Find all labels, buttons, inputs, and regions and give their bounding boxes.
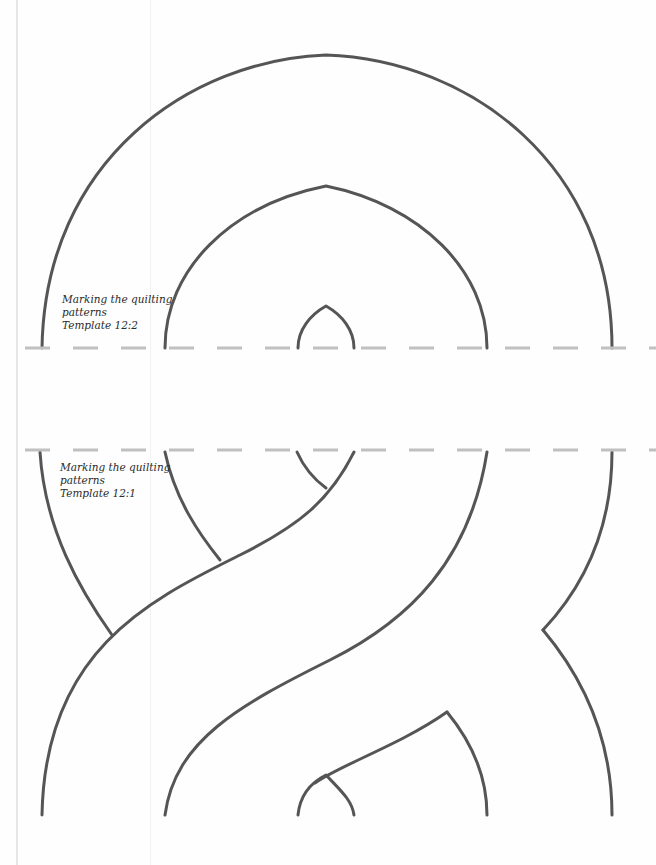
cable-strand-right bbox=[543, 630, 612, 815]
cable-strand-left bbox=[165, 452, 220, 560]
caption-line: Marking the quilting bbox=[60, 461, 170, 474]
caption-line: patterns bbox=[60, 474, 170, 487]
cable-outer-right-upper bbox=[543, 452, 612, 630]
template-12-2-caption: Marking the quilting patterns Template 1… bbox=[62, 293, 172, 332]
cable-bottom-petal bbox=[298, 775, 354, 815]
quilting-pattern-artwork bbox=[0, 0, 656, 865]
quilting-template-page: Marking the quilting patterns Template 1… bbox=[0, 0, 656, 865]
inner-petal bbox=[298, 306, 354, 348]
cable-strand-main bbox=[42, 452, 354, 815]
cable-strand-center-small bbox=[297, 452, 326, 488]
cable-bottom-cross bbox=[315, 712, 447, 783]
caption-line: Template 12:1 bbox=[60, 487, 170, 500]
caption-line: patterns bbox=[62, 306, 172, 319]
cut-lines bbox=[25, 348, 656, 450]
template-12-1-caption: Marking the quilting patterns Template 1… bbox=[60, 461, 170, 500]
caption-line: Template 12:2 bbox=[62, 319, 172, 332]
cable-strand-main-2 bbox=[165, 452, 487, 815]
middle-arch bbox=[165, 186, 487, 348]
caption-line: Marking the quilting bbox=[62, 293, 172, 306]
cable-strand-right-inner bbox=[447, 712, 487, 815]
